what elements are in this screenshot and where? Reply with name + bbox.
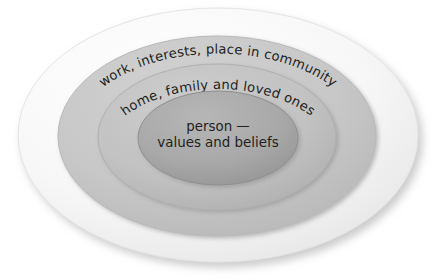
center-label-line-1: person — — [186, 119, 250, 134]
center-label-line-2: values and beliefs — [157, 135, 278, 150]
ring-inner: person — values and beliefs — [138, 91, 298, 185]
concentric-ellipse-diagram: wider world work, interests, place in co… — [0, 0, 436, 280]
diagram-canvas: wider world work, interests, place in co… — [0, 0, 436, 280]
